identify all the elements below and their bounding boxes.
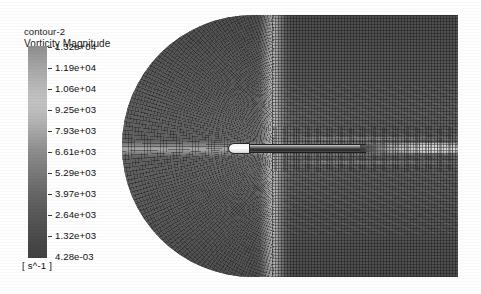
colorbar-label-5: 6.61e+03: [55, 146, 96, 157]
domain-clip: [122, 15, 458, 277]
colorbar-label-9: 1.32e+03: [55, 230, 96, 241]
legend-title: contour-2: [24, 26, 110, 38]
colorbar-tick-1: [48, 68, 52, 69]
colorbar-label-3: 9.25e+03: [55, 104, 96, 115]
colorbar-tick-5: [48, 152, 52, 153]
colorbar-label-1: 1.19e+04: [55, 62, 96, 73]
colorbar-tick-2: [48, 89, 52, 90]
colorbar-label-10: 4.28e-03: [55, 251, 94, 262]
colorbar-label-7: 3.97e+03: [55, 188, 96, 199]
cfd-contour-screenshot: contour-2 Vorticity Magnitude 1.32e+04 1…: [0, 0, 481, 294]
turbulence-speckle: [282, 85, 458, 235]
colorbar-tick-0: [48, 47, 52, 48]
body-tube: [248, 144, 366, 153]
colorbar-label-2: 1.06e+04: [55, 83, 96, 94]
colorbar-label-8: 2.64e+03: [55, 209, 96, 220]
colorbar-label-4: 7.93e+03: [55, 125, 96, 136]
colorbar-label-6: 5.29e+03: [55, 167, 96, 178]
body-nose: [228, 143, 250, 154]
legend-units-label: [ s^-1 ]: [22, 260, 52, 271]
contour-plot-domain: [122, 15, 458, 277]
colorbar-tick-6: [48, 173, 52, 174]
colorbar-label-0: 1.32e+04: [55, 41, 96, 52]
colorbar-tick-9: [48, 236, 52, 237]
colorbar-tick-8: [48, 215, 52, 216]
colorbar-tick-7: [48, 194, 52, 195]
body-tube-taper: [360, 145, 390, 152]
colorbar-gradient: [28, 46, 47, 258]
colorbar-tick-4: [48, 131, 52, 132]
colorbar-tick-3: [48, 110, 52, 111]
